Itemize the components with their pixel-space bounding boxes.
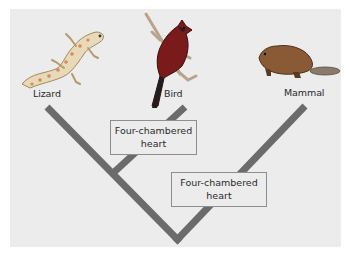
trait-text-line1: Four-chambered	[172, 176, 266, 189]
taxon-label-mammal: Mammal	[284, 87, 324, 98]
trait-box-mammal: Four-chambered heart	[171, 172, 267, 207]
mammal-icon	[255, 38, 345, 82]
trait-box-bird: Four-chambered heart	[110, 120, 197, 155]
trait-text-line2: heart	[172, 189, 266, 202]
taxon-label-lizard: Lizard	[33, 88, 61, 99]
trait-text-line2: heart	[111, 137, 196, 150]
taxon-label-bird: Bird	[164, 88, 183, 99]
trait-text-line1: Four-chambered	[111, 124, 196, 137]
lizard-icon	[18, 12, 108, 92]
